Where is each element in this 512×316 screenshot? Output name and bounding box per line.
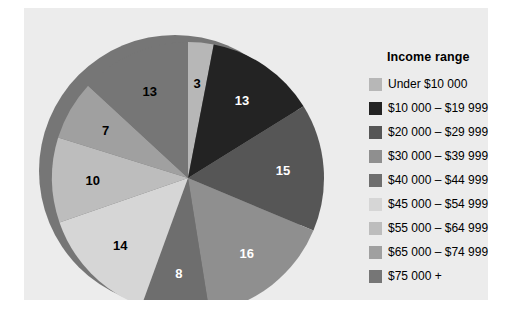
legend-item-label: $30 000 – $39 999 — [388, 150, 488, 162]
pie-chart-svg: 313151681410713 — [24, 0, 364, 300]
legend-item-label: $40 000 – $44 999 — [388, 174, 488, 186]
pie-slice-value-label: 16 — [240, 246, 254, 261]
pie-slice-value-label: 14 — [113, 238, 128, 253]
pie-slice-value-label: 7 — [102, 123, 109, 138]
legend-swatch-icon — [369, 78, 382, 91]
legend-swatch-icon — [369, 174, 382, 187]
legend-swatch-icon — [369, 198, 382, 211]
legend-item[interactable]: Under $10 000 — [369, 73, 489, 95]
legend-swatch-icon — [369, 270, 382, 283]
pie-slice-value-label: 3 — [193, 76, 200, 91]
legend-item-label: $75 000 + — [388, 270, 442, 282]
legend-item-label: $20 000 – $29 999 — [388, 126, 488, 138]
legend-item[interactable]: $45 000 – $54 999 — [369, 193, 489, 215]
legend-item[interactable]: $10 000 – $19 999 — [369, 97, 489, 119]
legend-swatch-icon — [369, 222, 382, 235]
legend-swatch-icon — [369, 102, 382, 115]
legend-item-label: Under $10 000 — [388, 78, 467, 90]
pie-chart: 313151681410713 — [24, 0, 364, 300]
pie-slice-value-label: 13 — [143, 84, 157, 99]
pie-slice-value-label: 10 — [86, 173, 100, 188]
legend-item[interactable]: $20 000 – $29 999 — [369, 121, 489, 143]
pie-chart-plot-area: 313151681410713 — [24, 8, 364, 300]
legend-item-label: $65 000 – $74 999 — [388, 246, 488, 258]
chart-figure: 313151681410713 Income range Under $10 0… — [24, 8, 488, 300]
legend-item-label: $55 000 – $64 999 — [388, 222, 488, 234]
legend-swatch-icon — [369, 246, 382, 259]
legend: Income range Under $10 000$10 000 – $19 … — [369, 50, 489, 289]
legend-item[interactable]: $40 000 – $44 999 — [369, 169, 489, 191]
pie-slice-value-label: 8 — [175, 266, 182, 281]
legend-item-label: $45 000 – $54 999 — [388, 198, 488, 210]
pie-slice-value-label: 13 — [235, 93, 249, 108]
legend-swatch-icon — [369, 150, 382, 163]
pie-slice-value-label: 15 — [276, 163, 290, 178]
legend-item[interactable]: $65 000 – $74 999 — [369, 241, 489, 263]
legend-item-label: $10 000 – $19 999 — [388, 102, 488, 114]
legend-item[interactable]: $55 000 – $64 999 — [369, 217, 489, 239]
legend-items: Under $10 000$10 000 – $19 999$20 000 – … — [369, 73, 489, 287]
legend-item[interactable]: $75 000 + — [369, 265, 489, 287]
legend-item[interactable]: $30 000 – $39 999 — [369, 145, 489, 167]
legend-title: Income range — [387, 50, 489, 64]
legend-swatch-icon — [369, 126, 382, 139]
